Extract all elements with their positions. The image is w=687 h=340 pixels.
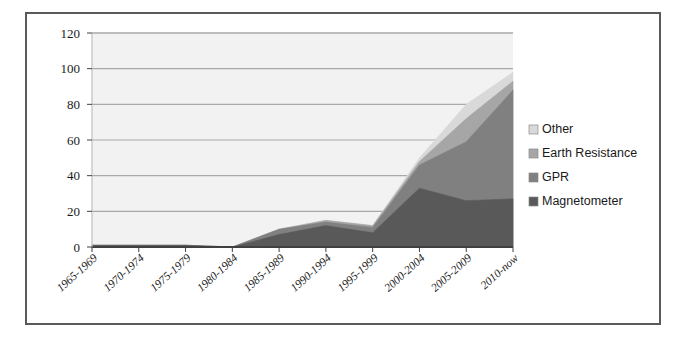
x-tick-label: 1985-1989 bbox=[241, 251, 286, 293]
x-tick-label: 2010-now bbox=[478, 251, 520, 291]
legend-swatch-earth-resistance bbox=[529, 149, 538, 158]
x-axis-tick-labels: 1965-19691970-19741975-19791980-19841985… bbox=[54, 251, 520, 293]
legend-swatch-gpr bbox=[529, 173, 538, 182]
x-tick-label: 1995-1999 bbox=[335, 251, 380, 293]
y-tick-label: 40 bbox=[67, 168, 80, 183]
y-axis-tick-marks bbox=[87, 33, 92, 247]
y-tick-label: 80 bbox=[67, 97, 80, 112]
legend-label-magnetometer: Magnetometer bbox=[542, 194, 623, 208]
x-tick-label: 1970-1974 bbox=[101, 251, 146, 293]
chart-canvas: 020406080100120 1965-19691970-19741975-1… bbox=[0, 0, 687, 340]
x-tick-label: 1965-1969 bbox=[54, 251, 99, 293]
x-tick-label: 2000-2004 bbox=[382, 251, 427, 293]
y-tick-label: 20 bbox=[67, 204, 80, 219]
y-tick-label: 0 bbox=[74, 240, 81, 255]
y-tick-label: 120 bbox=[61, 26, 81, 41]
legend-swatch-other bbox=[529, 125, 538, 134]
legend-swatch-magnetometer bbox=[529, 197, 538, 206]
x-tick-label: 2005-2009 bbox=[428, 251, 473, 293]
stacked-area-chart: 020406080100120 1965-19691970-19741975-1… bbox=[0, 0, 687, 340]
x-tick-label: 1975-1979 bbox=[148, 251, 193, 293]
chart-legend: OtherEarth ResistanceGPRMagnetometer bbox=[529, 122, 637, 208]
y-tick-label: 60 bbox=[67, 133, 80, 148]
legend-label-other: Other bbox=[542, 122, 573, 136]
x-tick-label: 1990-1994 bbox=[288, 251, 333, 293]
x-tick-label: 1980-1984 bbox=[195, 251, 240, 293]
legend-label-gpr: GPR bbox=[542, 170, 569, 184]
y-axis-tick-labels: 020406080100120 bbox=[61, 26, 81, 255]
legend-label-earth-resistance: Earth Resistance bbox=[542, 146, 637, 160]
y-tick-label: 100 bbox=[61, 61, 81, 76]
